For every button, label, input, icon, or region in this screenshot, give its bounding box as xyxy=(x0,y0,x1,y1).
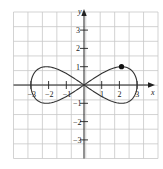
parametric-curve-chart: −3−2−1123321−1−2−3 x y xyxy=(0,0,163,169)
y-tick-label: 3 xyxy=(76,26,80,35)
x-tick-label: −2 xyxy=(45,90,54,99)
y-tick-label: −3 xyxy=(73,136,82,145)
x-axis-arrow-icon xyxy=(148,82,155,87)
x-axis-label: x xyxy=(150,88,155,97)
marked-point xyxy=(119,64,124,69)
y-tick-label: −2 xyxy=(73,118,82,127)
chart-canvas: −3−2−1123321−1−2−3 x y xyxy=(0,0,163,169)
y-axis-label: y xyxy=(77,7,82,16)
y-tick-label: 2 xyxy=(76,44,80,53)
axes xyxy=(14,9,156,159)
y-tick-label: 1 xyxy=(76,63,80,72)
y-tick-label: −1 xyxy=(73,99,82,108)
x-tick-label: 2 xyxy=(118,90,122,99)
